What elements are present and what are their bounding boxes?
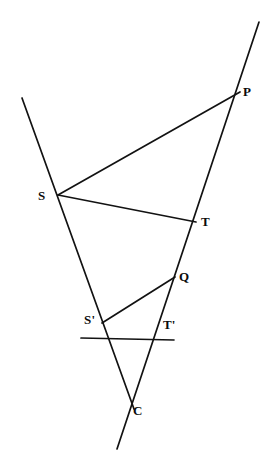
point-label-C: C bbox=[133, 404, 143, 417]
point-label-T: T bbox=[201, 215, 210, 228]
geometry-diagram: PSTQS'T'C bbox=[0, 0, 275, 465]
point-label-S: S bbox=[38, 189, 45, 202]
transversal-lines-group bbox=[22, 22, 259, 449]
point-label-P: P bbox=[243, 85, 251, 98]
segment-S-to-P bbox=[58, 92, 240, 195]
point-label-Tp: T' bbox=[163, 318, 176, 331]
transversal-through-S-Sprime-C bbox=[22, 98, 134, 409]
segment-S-to-T bbox=[58, 195, 196, 222]
chord-segments-group bbox=[58, 92, 240, 323]
point-label-Sp: S' bbox=[84, 313, 95, 326]
transversal-through-P-T-Q-Tprime-C bbox=[117, 22, 259, 449]
line-through-Sprime-and-Tprime bbox=[81, 338, 174, 340]
point-label-Q: Q bbox=[179, 270, 189, 283]
figure-canvas bbox=[0, 0, 275, 465]
